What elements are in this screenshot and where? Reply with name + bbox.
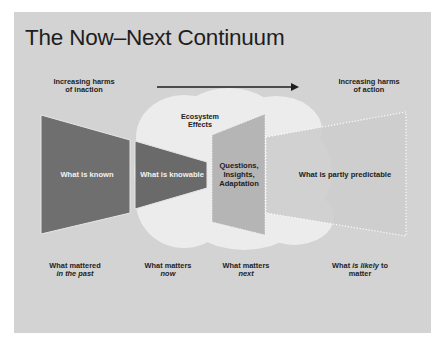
questions-label: Questions, Insights, Adaptation bbox=[210, 161, 268, 188]
harms-of-inaction-line2: of inaction bbox=[29, 86, 139, 94]
page-title: The Now–Next Continuum bbox=[25, 25, 284, 51]
harms-of-inaction-label: Increasing harms of inaction bbox=[29, 78, 139, 95]
slide: The Now–Next Continuum Increasing harms … bbox=[14, 12, 431, 333]
bottom-label-next: What matters next bbox=[196, 262, 296, 279]
next-line2: next bbox=[196, 270, 296, 278]
questions-line3: Adaptation bbox=[210, 179, 268, 188]
questions-line1: Questions, bbox=[210, 161, 268, 170]
likely-line2: matter bbox=[310, 270, 410, 278]
bottom-label-past: What mattered in the past bbox=[25, 262, 125, 279]
knowable-label: What is knowable bbox=[134, 170, 210, 179]
likely-line1-c: to bbox=[379, 261, 388, 270]
past-line2: in the past bbox=[25, 270, 125, 278]
ecosystem-line2: Effects bbox=[165, 121, 235, 129]
bottom-label-likely: What is likely to matter bbox=[310, 262, 410, 279]
predictable-label: What is partly predictable bbox=[290, 170, 400, 179]
harms-of-action-label: Increasing harms of action bbox=[314, 78, 424, 95]
known-label: What is known bbox=[47, 170, 127, 179]
harms-of-action-line2: of action bbox=[314, 86, 424, 94]
questions-line2: Insights, bbox=[210, 170, 268, 179]
ecosystem-effects-label: Ecosystem Effects bbox=[165, 113, 235, 130]
